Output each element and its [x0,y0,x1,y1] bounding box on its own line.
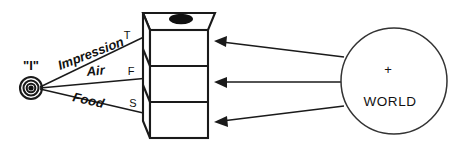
box-top-opening-ellipse [169,14,193,24]
port-label-s: S [129,97,136,109]
self-symbol-group [20,77,42,99]
arrow-top-shaft [222,42,344,57]
arrow-middle-head [214,77,227,88]
arrow-top-head [214,36,227,47]
arrow-top-group [214,36,344,57]
box-group [143,13,215,138]
box-front-face-fill [150,30,208,138]
target-core-dot [28,85,33,90]
world-group: + WORLD [341,28,447,134]
channel-label-air-group: Air [85,62,106,79]
arrow-bottom-head [214,116,228,127]
port-label-f: F [128,65,135,77]
self-world-diagram: T F S Impression Air Food "I" [0,0,464,151]
port-label-t: T [124,29,131,41]
channel-label-food-group: Food [71,89,106,111]
arrow-bottom-group [214,106,344,127]
channel-label-food: Food [71,89,106,111]
world-label: WORLD [363,94,416,109]
diagram-canvas: T F S Impression Air Food "I" [0,0,464,151]
channel-label-air: Air [85,62,106,79]
self-label: "I" [23,58,39,73]
world-plus-sign: + [384,62,392,77]
arrow-bottom-shaft [222,106,344,121]
arrow-middle-group [214,77,342,88]
